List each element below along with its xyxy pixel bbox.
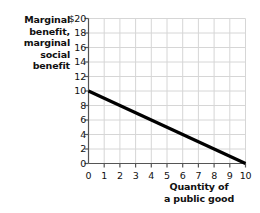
x-axis-title-line: Quantity of [140, 181, 258, 193]
x-axis-tick-label: 10 [236, 171, 256, 181]
chart-figure: Marginal benefit, marginal social benefi… [0, 0, 260, 213]
x-axis-title: Quantity of a public good [140, 181, 258, 204]
x-axis-title-line: a public good [140, 193, 258, 205]
